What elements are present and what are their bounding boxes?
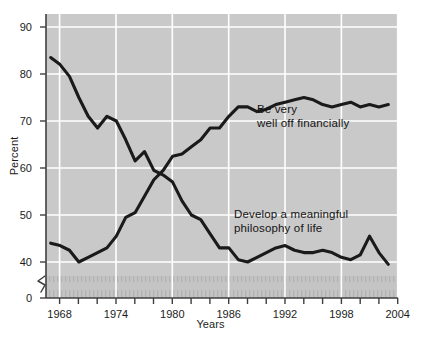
y-tick-label-90: 90 — [8, 21, 32, 33]
axis-break-band — [46, 276, 398, 298]
y-axis-title: Percent — [8, 126, 20, 186]
x-ticks — [60, 298, 398, 304]
series-annotation-be-very-well-off: Be very well off financially — [257, 103, 349, 130]
x-axis-title: Years — [0, 318, 421, 330]
chart-figure: 90 80 70 60 50 40 0 1968 1974 1980 1986 … — [0, 0, 421, 341]
y-ticks — [40, 27, 46, 298]
y-tick-label-50: 50 — [8, 209, 32, 221]
y-tick-label-80: 80 — [8, 68, 32, 80]
axis-break-icon — [38, 276, 45, 292]
y-tick-label-40: 40 — [8, 256, 32, 268]
plot-background — [46, 14, 398, 298]
chart-plot-svg — [0, 0, 421, 341]
y-tick-label-0: 0 — [8, 292, 32, 304]
series-annotation-develop-philosophy: Develop a meaningful philosophy of life — [234, 208, 348, 235]
